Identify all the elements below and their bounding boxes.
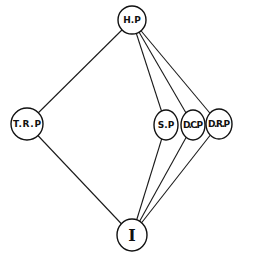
node-drp: D.R.P (206, 109, 232, 139)
edge-drp-i (132, 124, 219, 235)
node-label: D.R.P (208, 119, 230, 129)
node-dcp: D.C.P (181, 110, 205, 140)
node-label: S.P (158, 120, 175, 130)
edge-trp-i (27, 124, 132, 235)
hasse-diagram: H.PT.R.PS.PD.C.PD.R.PI (0, 0, 254, 260)
edge-hp-drp (132, 20, 219, 124)
node-label: H.P (123, 15, 141, 25)
edge-sp-i (132, 125, 166, 235)
edge-hp-dcp (132, 20, 193, 125)
edge-hp-sp (132, 20, 166, 125)
node-i: I (117, 219, 147, 251)
node-trp: T.R.P (11, 108, 43, 140)
edge-hp-trp (27, 20, 132, 124)
node-label: D.C.P (183, 120, 203, 130)
node-sp: S.P (154, 110, 178, 140)
node-label: I (128, 226, 135, 245)
node-hp: H.P (118, 6, 146, 34)
nodes: H.PT.R.PS.PD.C.PD.R.PI (11, 6, 232, 251)
edge-dcp-i (132, 125, 193, 235)
node-label: T.R.P (13, 119, 41, 129)
